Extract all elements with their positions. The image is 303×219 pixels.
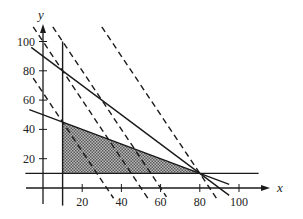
- y-tick-label: 100: [17, 35, 35, 49]
- x-tick-label: 100: [230, 195, 248, 209]
- x-tick-label: 20: [76, 195, 88, 209]
- x-axis-arrow-icon: [261, 185, 270, 191]
- x-axis-label: x: [276, 180, 283, 195]
- x-tick-label: 80: [194, 195, 206, 209]
- y-axis-label: y: [36, 7, 44, 22]
- x-tick-label: 40: [115, 195, 127, 209]
- y-tick-label: 20: [23, 152, 35, 166]
- constraint-lines: [25, 42, 258, 206]
- y-tick-label: 60: [23, 93, 35, 107]
- y-tick-label: 80: [23, 64, 35, 78]
- linear-programming-chart: x y 2040608010020406080100: [0, 0, 303, 219]
- x-tick-label: 60: [155, 195, 167, 209]
- y-axis-arrow-icon: [40, 24, 46, 33]
- y-tick-label: 40: [23, 122, 35, 136]
